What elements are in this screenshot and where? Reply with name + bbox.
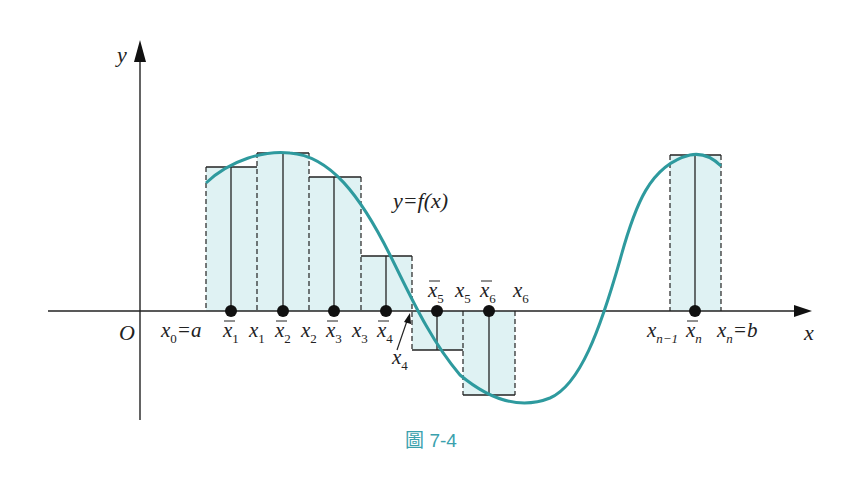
svg-text:xn: xn bbox=[685, 318, 702, 346]
svg-text:x4: x4 bbox=[376, 318, 393, 346]
sample-label-2: x2 bbox=[274, 318, 291, 346]
x1-label: x1 bbox=[248, 318, 265, 346]
sample-label-4: x4 bbox=[376, 318, 393, 346]
xn-1-label: xn−1 bbox=[646, 318, 678, 346]
riemann-sum-diagram: y x O y=f(x) x0=a x1 x1 x2 x2 x3 x3 x4 x… bbox=[0, 0, 862, 490]
curve-label: y=f(x) bbox=[391, 188, 448, 213]
y-axis-label: y bbox=[115, 42, 127, 67]
x-axis-arrow-icon bbox=[794, 305, 812, 317]
sample-label-5: x5 bbox=[427, 278, 444, 306]
sample-label-3: x3 bbox=[325, 318, 342, 346]
x-axis-label: x bbox=[803, 320, 814, 345]
x4-label: x4 bbox=[391, 345, 408, 373]
x2-label: x2 bbox=[300, 318, 317, 346]
x3-label: x3 bbox=[351, 318, 368, 346]
xn-label: xn=b bbox=[716, 318, 758, 346]
sample-label-1: x1 bbox=[222, 318, 239, 346]
svg-text:x1: x1 bbox=[222, 318, 239, 346]
sample-label-n: xn bbox=[685, 318, 702, 346]
origin-label: O bbox=[119, 320, 135, 345]
x4-pointer-arrow-icon bbox=[404, 313, 411, 324]
x0-label: x0=a bbox=[160, 318, 202, 346]
x6-label: x6 bbox=[512, 278, 529, 306]
svg-text:x3: x3 bbox=[325, 318, 342, 346]
figure-caption: 圖 7-4 bbox=[0, 425, 862, 452]
svg-text:x5: x5 bbox=[427, 278, 444, 306]
sample-label-6: x6 bbox=[479, 278, 496, 306]
y-axis-arrow-icon bbox=[134, 40, 146, 62]
svg-text:x6: x6 bbox=[479, 278, 496, 306]
svg-text:x2: x2 bbox=[274, 318, 291, 346]
x5-label: x5 bbox=[454, 278, 471, 306]
